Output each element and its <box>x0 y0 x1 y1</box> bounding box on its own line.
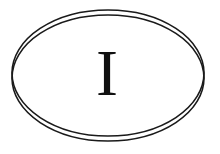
country-code-letter: I <box>0 40 214 106</box>
oval-sticker: I <box>0 0 220 154</box>
